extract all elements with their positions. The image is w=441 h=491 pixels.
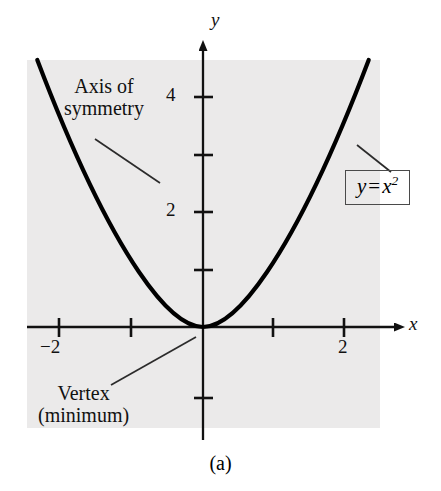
x-axis-label: x [409,314,417,335]
vertex-line2: (minimum) [38,405,129,427]
y-tick-label-4: 4 [166,85,176,106]
x-tick-label-neg2: −2 [40,337,60,358]
y-axis-label: y [211,10,219,31]
vertex-leader-line [111,337,196,385]
equation-callout-box: y=x2 [345,170,410,205]
axis-of-symmetry-label: Axis of symmetry [64,76,144,119]
axis-of-symmetry-line1: Axis of [64,76,144,98]
axis-of-symmetry-line2: symmetry [64,98,144,120]
x-tick-label-pos2: 2 [338,337,348,358]
axis-of-symmetry-leader-line [95,139,160,183]
equation-lhs: y [357,174,366,198]
y-tick-label-2: 2 [166,200,176,221]
figure-caption: (a) [0,452,441,475]
vertex-line1: Vertex [38,383,129,405]
vertex-label: Vertex (minimum) [38,383,129,426]
equation-leader-line [357,145,391,172]
equation-exponent: 2 [392,173,399,188]
equation-base: x [382,174,391,198]
equation-operator: = [366,174,382,198]
figure-container: y x −2 2 2 4 Axis of symmetry Vertex (mi… [0,0,441,491]
